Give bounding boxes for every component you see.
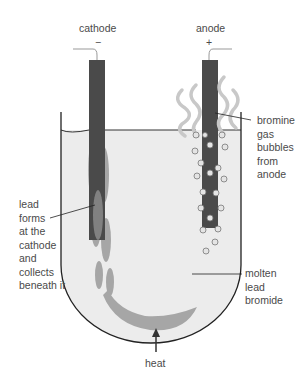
lead-label: lead forms at the cathode and collects b…: [19, 198, 65, 293]
heat-label: heat: [145, 357, 165, 371]
anode-label: anode: [196, 22, 225, 36]
anode-wire: [209, 49, 232, 60]
anode-sign: +: [206, 36, 212, 50]
electrolysis-diagram: [0, 0, 305, 388]
cathode-wire: [73, 49, 97, 60]
cathode-sign: −: [95, 36, 101, 50]
molten-label: molten lead bromide: [245, 267, 283, 308]
cathode-label: cathode: [79, 22, 116, 36]
bromine-label: bromine gas bubbles from anode: [257, 114, 295, 182]
